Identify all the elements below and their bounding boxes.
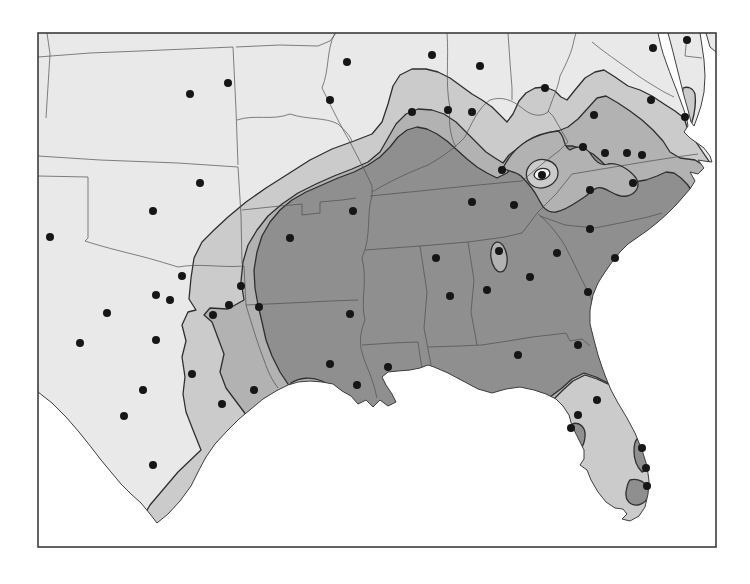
station-dot — [76, 339, 84, 347]
station-dot — [186, 90, 194, 98]
station-dot — [326, 360, 334, 368]
station-dot — [255, 303, 263, 311]
station-dot — [188, 370, 196, 378]
station-dot — [541, 84, 549, 92]
station-dot — [601, 149, 609, 157]
station-dot — [586, 225, 594, 233]
station-dot — [567, 424, 575, 432]
us-southeast-isopleth-map — [0, 0, 750, 584]
station-dot — [642, 464, 650, 472]
station-dot — [638, 151, 646, 159]
station-dot — [209, 311, 217, 319]
station-dot — [286, 234, 294, 242]
station-dot — [468, 198, 476, 206]
station-dot — [514, 351, 522, 359]
station-dot — [326, 96, 334, 104]
station-dot — [683, 36, 691, 44]
station-dot — [526, 273, 534, 281]
station-dot — [250, 386, 258, 394]
station-dot — [495, 247, 503, 255]
station-dot — [196, 179, 204, 187]
station-dot — [649, 44, 657, 52]
station-dot — [178, 272, 186, 280]
station-dot — [120, 412, 128, 420]
station-dot — [590, 111, 598, 119]
station-dot — [349, 207, 357, 215]
station-dot — [623, 149, 631, 157]
station-dot — [428, 51, 436, 59]
station-dot — [584, 288, 592, 296]
station-dot — [346, 310, 354, 318]
station-dot — [593, 396, 601, 404]
station-dot — [149, 461, 157, 469]
station-dot — [574, 411, 582, 419]
station-dot — [343, 58, 351, 66]
station-dot — [446, 292, 454, 300]
station-dot — [103, 309, 111, 317]
station-dot — [139, 386, 147, 394]
station-dot — [46, 233, 54, 241]
station-dot — [586, 186, 594, 194]
station-dot — [166, 296, 174, 304]
station-dot — [224, 79, 232, 87]
station-dot — [643, 482, 651, 490]
station-dot — [483, 286, 491, 294]
station-dot — [579, 143, 587, 151]
station-dot — [218, 400, 226, 408]
station-dot — [152, 291, 160, 299]
station-dot — [225, 301, 233, 309]
station-dot — [574, 341, 582, 349]
station-dot — [681, 113, 689, 121]
station-dot — [353, 381, 361, 389]
station-dot — [538, 171, 546, 179]
station-dot — [638, 444, 646, 452]
station-dot — [444, 106, 452, 114]
station-dot — [408, 108, 416, 116]
station-dot — [432, 254, 440, 262]
station-dot — [553, 249, 561, 257]
station-dot — [510, 201, 518, 209]
station-dot — [476, 62, 484, 70]
station-dot — [384, 363, 392, 371]
station-dot — [152, 336, 160, 344]
station-dot — [629, 179, 637, 187]
station-dot — [237, 282, 245, 290]
station-dot — [611, 254, 619, 262]
station-dot — [468, 108, 476, 116]
station-dot — [498, 166, 506, 174]
scanned-map-page — [0, 0, 750, 584]
station-dot — [149, 207, 157, 215]
station-dot — [647, 96, 655, 104]
